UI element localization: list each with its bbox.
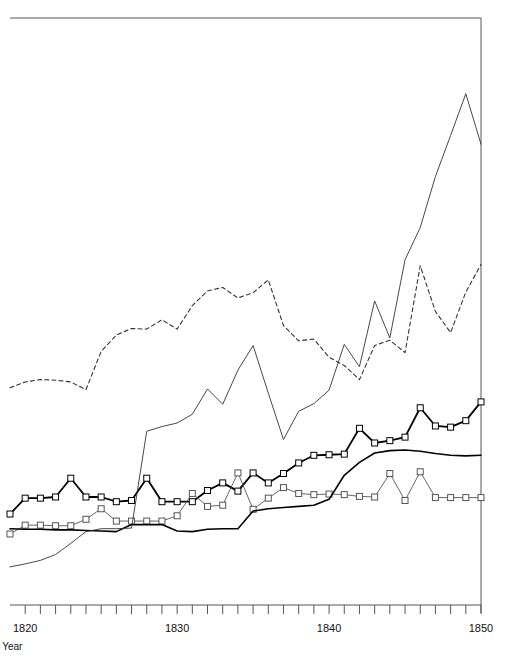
series-series-marked-thin	[7, 469, 484, 537]
series-marker	[432, 423, 438, 429]
series-series-plain-thin	[10, 94, 481, 567]
series-marker	[417, 469, 423, 475]
series-marker	[68, 523, 74, 529]
series-line	[10, 94, 481, 567]
chart-container: 1820183018401850Year	[0, 0, 508, 672]
series-marker	[53, 523, 59, 529]
series-marker	[68, 475, 74, 481]
series-marker	[205, 488, 211, 494]
x-tick-label: 1840	[317, 622, 341, 634]
series-marker	[113, 499, 119, 505]
series-marker	[113, 518, 119, 524]
series-marker	[417, 405, 423, 411]
series-marker	[387, 438, 393, 444]
x-tick-label: 1820	[13, 622, 37, 634]
series-marker	[372, 440, 378, 446]
series-series-marked-bold	[7, 399, 484, 517]
series-marker	[311, 452, 317, 458]
series-marker	[37, 495, 43, 501]
series-marker	[37, 522, 43, 528]
series-marker	[129, 498, 135, 504]
series-marker	[280, 471, 286, 477]
series-marker	[296, 490, 302, 496]
series-marker	[250, 470, 256, 476]
series-marker	[265, 495, 271, 501]
series-marker	[98, 506, 104, 512]
series-marker	[448, 424, 454, 430]
series-marker	[159, 518, 165, 524]
series-marker	[235, 470, 241, 476]
series-marker	[205, 503, 211, 509]
line-chart: 1820183018401850Year	[0, 0, 508, 672]
series-marker	[144, 518, 150, 524]
series-marker	[220, 502, 226, 508]
series-series-dashed	[10, 265, 481, 390]
series-marker	[265, 480, 271, 486]
series-marker	[189, 490, 195, 496]
series-marker	[478, 399, 484, 405]
x-tick-label: 1850	[469, 622, 493, 634]
x-axis-ticks	[25, 605, 481, 614]
series-line	[10, 402, 481, 514]
series-marker	[220, 480, 226, 486]
series-marker	[22, 495, 28, 501]
series-marker	[22, 522, 28, 528]
series-marker	[83, 494, 89, 500]
series-marker	[311, 492, 317, 498]
series-marker	[189, 499, 195, 505]
series-marker	[341, 492, 347, 498]
series-marker	[83, 516, 89, 522]
series-marker	[280, 485, 286, 491]
series-marker	[372, 494, 378, 500]
series-marker	[341, 451, 347, 457]
series-marker	[402, 434, 408, 440]
series-marker	[387, 471, 393, 477]
series-marker	[326, 452, 332, 458]
series-line	[10, 265, 481, 390]
x-axis-title: Year	[2, 641, 23, 652]
series-marker	[159, 499, 165, 505]
series-marker	[356, 425, 362, 431]
series-marker	[7, 511, 13, 517]
series-marker	[356, 493, 362, 499]
series-marker	[129, 518, 135, 524]
series-marker	[402, 498, 408, 504]
series-marker	[174, 499, 180, 505]
series-marker	[235, 488, 241, 494]
series-marker	[98, 494, 104, 500]
series-marker	[432, 495, 438, 501]
series-marker	[463, 418, 469, 424]
series-marker	[174, 513, 180, 519]
series-marker	[463, 495, 469, 501]
series-marker	[144, 475, 150, 481]
series-marker	[7, 531, 13, 537]
x-tick-labels: 1820183018401850	[13, 622, 493, 634]
series-marker	[478, 495, 484, 501]
series-marker	[53, 494, 59, 500]
x-tick-label: 1830	[165, 622, 189, 634]
series-marker	[296, 460, 302, 466]
series-marker	[448, 495, 454, 501]
